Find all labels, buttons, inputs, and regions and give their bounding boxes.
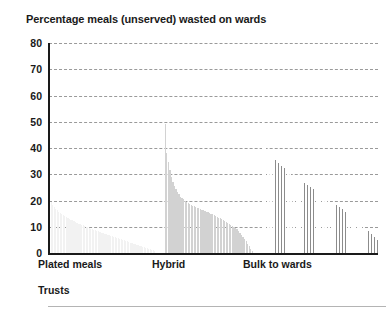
chart-figure: Percentage meals (unserved) wasted on wa… [0, 0, 391, 312]
group-label-plated-meals: Plated meals [38, 258, 102, 270]
y-tick-label-20: 20 [0, 195, 42, 207]
plot-inner [49, 43, 378, 253]
y-tick-label-40: 40 [0, 142, 42, 154]
x-axis-title: Trusts [38, 284, 70, 296]
bars-layer [49, 43, 378, 253]
bottom-rule-divider [48, 306, 386, 307]
y-tick-label-30: 30 [0, 168, 42, 180]
y-tick-label-70: 70 [0, 63, 42, 75]
y-tick-label-80: 80 [0, 37, 42, 49]
bar [376, 240, 377, 253]
group-label-hybrid: Hybrid [152, 258, 185, 270]
y-tick-label-50: 50 [0, 116, 42, 128]
group-label-bulk-to-wards: Bulk to wards [243, 258, 312, 270]
x-axis-line [48, 253, 378, 255]
plot-area [49, 43, 378, 253]
y-tick-label-0: 0 [0, 247, 42, 259]
y-tick-label-10: 10 [0, 221, 42, 233]
chart-title: Percentage meals (unserved) wasted on wa… [26, 13, 266, 25]
y-tick-label-60: 60 [0, 90, 42, 102]
y-axis-line [48, 43, 50, 253]
